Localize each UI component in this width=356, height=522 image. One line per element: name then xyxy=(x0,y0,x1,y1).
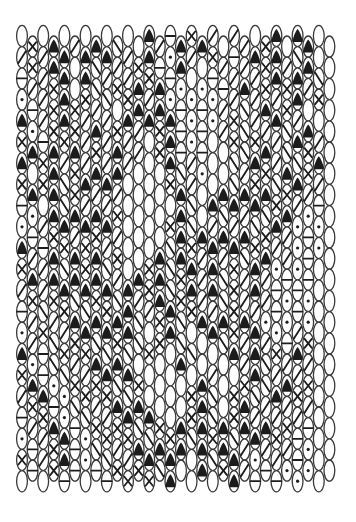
pattern-cell-backslash xyxy=(186,343,197,364)
pattern-cell-backslash xyxy=(59,174,70,195)
pattern-cell-filled-triangle xyxy=(38,386,49,407)
pattern-cell-slash xyxy=(123,131,134,152)
pattern-cell-cross xyxy=(303,333,314,354)
pattern-cell-cross xyxy=(133,375,144,396)
pattern-cell-slash xyxy=(27,418,38,439)
pattern-cell-cross xyxy=(133,57,144,78)
pattern-cell-slash xyxy=(303,396,314,417)
pattern-cell-dash xyxy=(27,100,38,121)
pattern-cell-dot xyxy=(271,322,282,343)
dot-icon xyxy=(317,246,320,249)
pattern-cell-blank xyxy=(313,280,324,301)
pattern-cell-cross xyxy=(260,163,271,184)
pattern-cell-dot xyxy=(282,312,293,333)
pattern-cell-filled-triangle xyxy=(207,195,218,216)
pattern-cell-slash xyxy=(229,216,240,237)
pattern-cell-backslash xyxy=(91,78,102,99)
dot-icon xyxy=(190,98,193,101)
pattern-cell-dash xyxy=(313,195,324,216)
pattern-cell-filled-triangle xyxy=(250,428,261,449)
dot-icon xyxy=(20,98,23,101)
pattern-cell-blank xyxy=(313,386,324,407)
pattern-cell-blank xyxy=(144,386,155,407)
pattern-cell-cross xyxy=(229,407,240,428)
pattern-cell-filled-triangle xyxy=(292,25,303,46)
pattern-cell-cross xyxy=(144,259,155,280)
pattern-cell-blank xyxy=(154,396,165,417)
pattern-cell-slash xyxy=(59,153,70,174)
pattern-cell-filled-triangle xyxy=(260,100,271,121)
pattern-cell-filled-triangle xyxy=(218,439,229,460)
pattern-cell-blank xyxy=(144,153,155,174)
pattern-cell-slash xyxy=(282,354,293,375)
pattern-cell-filled-triangle xyxy=(91,206,102,227)
pattern-cell-cross xyxy=(27,36,38,57)
pattern-cell-filled-triangle xyxy=(271,216,282,237)
pattern-cell-filled-triangle xyxy=(292,174,303,195)
pattern-cell-filled-triangle xyxy=(271,47,282,68)
pattern-cell-dot xyxy=(165,47,176,68)
pattern-cell-cross xyxy=(123,471,134,492)
pattern-cell-blank xyxy=(218,36,229,57)
pattern-cell-filled-triangle xyxy=(123,407,134,428)
pattern-cell-filled-triangle xyxy=(250,343,261,364)
pattern-cell-cross xyxy=(91,142,102,163)
pattern-cell-filled-triangle xyxy=(229,343,240,364)
pattern-cell-filled-triangle xyxy=(154,439,165,460)
pattern-cell-blank xyxy=(207,131,218,152)
pattern-cell-blank xyxy=(101,25,112,46)
pattern-cell-backslash xyxy=(186,216,197,237)
pattern-cell-filled-triangle xyxy=(101,322,112,343)
pattern-cell-slash xyxy=(250,110,261,131)
pattern-cell-dot xyxy=(207,89,218,110)
pattern-cell-slash xyxy=(144,89,155,110)
pattern-cell-filled-triangle xyxy=(48,206,59,227)
pattern-cell-backslash xyxy=(80,301,91,322)
pattern-cell-backslash xyxy=(59,259,70,280)
dot-icon xyxy=(285,299,288,302)
pattern-cell-slash xyxy=(239,163,250,184)
pattern-cell-filled-triangle xyxy=(144,407,155,428)
pattern-cell-backslash xyxy=(260,206,271,227)
pattern-cell-dash xyxy=(176,100,187,121)
pattern-cell-cross xyxy=(70,163,81,184)
pattern-cell-filled-triangle xyxy=(80,47,91,68)
pattern-cell-dot xyxy=(282,460,293,481)
pattern-cell-dash xyxy=(303,227,314,248)
pattern-cell-cross xyxy=(27,396,38,417)
pattern-cell-cross xyxy=(144,280,155,301)
pattern-cell-backslash xyxy=(154,460,165,481)
pattern-cell-slash xyxy=(292,195,303,216)
pattern-cell-dash xyxy=(27,439,38,460)
pattern-cell-blank xyxy=(80,471,91,492)
pattern-cell-blank xyxy=(313,343,324,364)
pattern-cell-filled-triangle xyxy=(27,375,38,396)
pattern-cell-blank xyxy=(123,237,134,258)
pattern-cell-backslash xyxy=(218,290,229,311)
pattern-cell-filled-triangle xyxy=(123,322,134,343)
pattern-cell-dash xyxy=(271,280,282,301)
pattern-cell-backslash xyxy=(313,68,324,89)
pattern-cell-cross xyxy=(154,121,165,142)
pattern-cell-slash xyxy=(260,439,271,460)
pattern-cell-blank xyxy=(313,407,324,428)
dot-icon xyxy=(307,299,310,302)
pattern-cell-filled-triangle xyxy=(197,396,208,417)
pattern-cell-filled-triangle xyxy=(144,47,155,68)
dot-icon xyxy=(307,321,310,324)
pattern-cell-dot xyxy=(313,216,324,237)
pattern-cell-cross xyxy=(112,460,123,481)
pattern-cell-backslash xyxy=(101,89,112,110)
pattern-cell-slash xyxy=(260,333,271,354)
pattern-cell-backslash xyxy=(292,47,303,68)
pattern-cell-cross xyxy=(38,322,49,343)
pattern-cell-cross xyxy=(186,25,197,46)
pattern-cell-slash xyxy=(239,36,250,57)
pattern-cell-cross xyxy=(133,460,144,481)
pattern-cell-filled-triangle xyxy=(133,269,144,290)
pattern-cell-dash xyxy=(218,78,229,99)
pattern-cell-dot xyxy=(27,121,38,142)
dot-icon xyxy=(169,98,172,101)
pattern-cell-dash xyxy=(27,460,38,481)
pattern-cell-slash xyxy=(144,301,155,322)
